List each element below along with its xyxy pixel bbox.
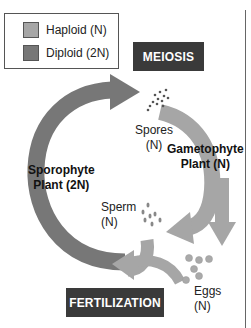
eggs-ploidy: (N)	[194, 299, 221, 314]
sperm-label: Sperm (N)	[101, 200, 136, 230]
sporophyte-text: Sporophyte	[28, 163, 95, 178]
sperm-ploidy: (N)	[101, 215, 136, 230]
eggs-icon	[183, 255, 213, 284]
sporophyte-ploidy: Plant (2N)	[28, 178, 95, 193]
gametophyte-text: Gametophyte	[167, 142, 244, 157]
fertilization-label: FERTILIZATION	[66, 288, 164, 317]
right-border-line	[245, 10, 246, 328]
sperm-icon	[142, 203, 162, 227]
sporophyte-label: Sporophyte Plant (2N)	[28, 163, 95, 193]
spores-text: Spores	[135, 123, 173, 138]
eggs-label: Eggs (N)	[194, 284, 221, 314]
gametophyte-ploidy: Plant (N)	[167, 157, 244, 172]
fertilization-arrow	[112, 240, 180, 282]
eggs-text: Eggs	[194, 284, 221, 299]
sperm-text: Sperm	[101, 200, 136, 215]
gametophyte-label: Gametophyte Plant (N)	[167, 142, 244, 172]
